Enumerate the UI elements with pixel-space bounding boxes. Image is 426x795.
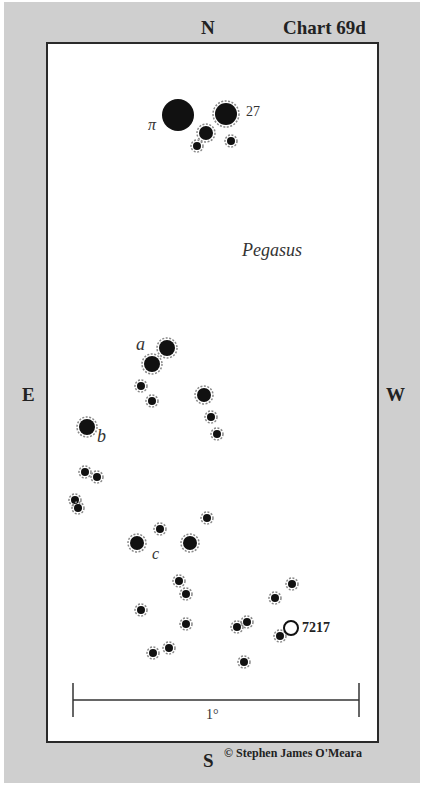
galaxy-marker [284, 621, 298, 635]
star-marker [203, 514, 211, 522]
star-marker [207, 413, 215, 421]
star-marker [148, 397, 156, 405]
star-marker [182, 620, 190, 628]
star-marker [288, 580, 296, 588]
star-marker [93, 473, 101, 481]
star-marker [79, 419, 95, 435]
star-marker [213, 430, 221, 438]
stars-layer [69, 99, 298, 668]
star-marker [159, 340, 175, 356]
star-marker [81, 468, 89, 476]
star-marker [227, 137, 235, 145]
star-marker [183, 536, 197, 550]
star-marker [137, 606, 145, 614]
scale-bar [73, 683, 359, 717]
star-marker [130, 536, 144, 550]
star-marker [193, 142, 201, 150]
star-marker [71, 496, 79, 504]
star-marker [162, 99, 194, 131]
star-marker [240, 658, 248, 666]
star-marker [137, 382, 145, 390]
star-marker [271, 594, 279, 602]
star-marker [197, 388, 211, 402]
star-marker [243, 618, 251, 626]
star-map [0, 0, 426, 795]
star-marker [276, 632, 284, 640]
star-marker [74, 504, 82, 512]
star-marker [156, 525, 164, 533]
star-marker [175, 577, 183, 585]
star-marker [144, 356, 160, 372]
star-marker [165, 644, 173, 652]
deep-sky-objects [284, 621, 298, 635]
star-marker [199, 126, 213, 140]
star-marker [215, 103, 237, 125]
star-marker [149, 649, 157, 657]
star-marker [233, 623, 241, 631]
star-marker [182, 590, 190, 598]
